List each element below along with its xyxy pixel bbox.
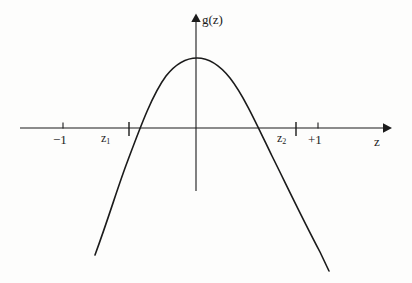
y-axis-arrowhead-icon	[191, 14, 200, 23]
x-axis-label: z	[374, 135, 380, 148]
x-axis-arrowhead-icon	[383, 123, 392, 133]
root-label-z1: z1	[101, 132, 110, 144]
x-tick-label-minus-one: −1	[53, 133, 67, 146]
y-axis-label: g(z)	[202, 13, 223, 26]
parabola-curve	[95, 58, 329, 271]
root-label-z2-subscript: 2	[282, 137, 286, 146]
root-label-z2: z2	[277, 132, 286, 144]
root-label-z1-subscript: 1	[106, 137, 110, 146]
x-tick-label-plus-one: +1	[308, 133, 322, 146]
figure-canvas: g(z) z −1 +1 z1 z2	[0, 0, 412, 283]
